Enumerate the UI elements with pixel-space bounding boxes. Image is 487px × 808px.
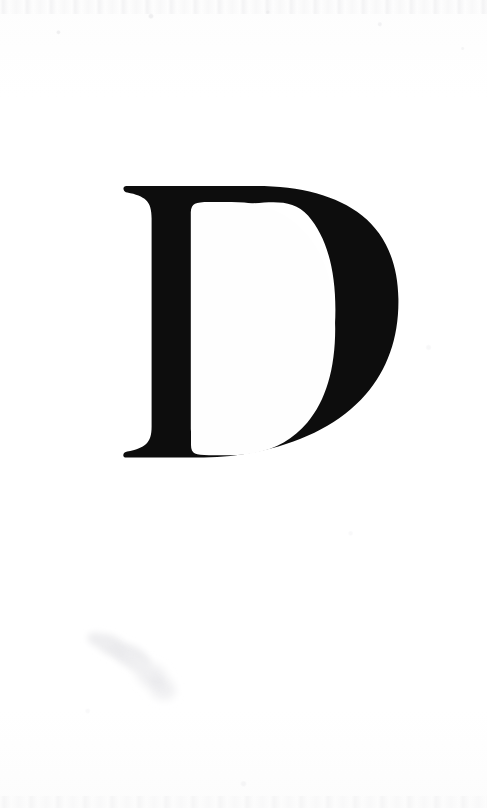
- dropcap-counter: [191, 202, 335, 455]
- scan-edge-noise-top: [0, 0, 487, 14]
- scan-edge-noise-bottom: [0, 796, 487, 808]
- ink-smudge-svg: [78, 620, 193, 715]
- dropcap-letter-d: [0, 0, 487, 808]
- ink-smudge-artifact: [78, 620, 193, 715]
- dropcap-outline: [123, 186, 398, 458]
- scanned-page: Scanned page bearing a single large seri…: [0, 0, 487, 808]
- dropcap-glyph-svg: [0, 0, 487, 808]
